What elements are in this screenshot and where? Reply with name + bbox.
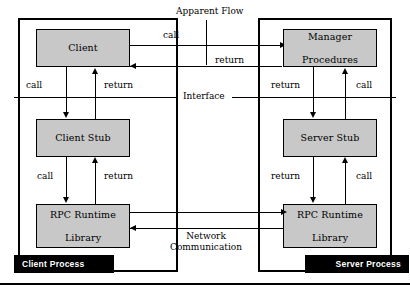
manager-call-arrow-line	[345, 74, 346, 119]
client-stub-box-label: Client Stub	[55, 132, 111, 144]
manager-procedures-box-label-line2: Procedures	[302, 54, 358, 66]
manager-call-arrowhead	[342, 68, 348, 74]
client-return-arrowhead	[92, 68, 98, 74]
manager-procedures-box: Manager Procedures	[283, 29, 377, 67]
client-stub-return-arrow-line	[95, 163, 96, 204]
network-communication-label-line2: Communication	[170, 242, 242, 252]
server-stub-call-arrowhead	[342, 157, 348, 163]
client-call-arrow-line	[66, 67, 67, 113]
apparent-return-label: return	[215, 55, 244, 66]
apparent-call-label: call	[163, 30, 179, 41]
server-stub-return-label: return	[271, 171, 300, 182]
server-runtime-box-label-line1: RPC Runtime	[297, 209, 363, 221]
manager-return-arrow-line	[313, 67, 314, 113]
server-runtime-box-label-line2: Library	[297, 232, 363, 244]
network-send-arrow-line	[130, 212, 283, 213]
server-stub-call-label: call	[356, 171, 372, 182]
client-stub-call-arrow-line	[66, 157, 67, 198]
client-stub-call-arrowhead	[63, 197, 69, 203]
network-communication-label: Network Communication	[156, 231, 256, 253]
client-stub-return-label: return	[104, 171, 133, 182]
client-return-arrow-line	[95, 74, 96, 119]
server-process-banner-label: Server Process	[336, 259, 401, 269]
client-runtime-box-label-line2: Library	[50, 232, 116, 244]
server-runtime-box: RPC Runtime Library	[283, 204, 377, 248]
rpc-architecture-diagram: Interface Apparent Flow call return Clie…	[0, 0, 410, 294]
server-stub-call-arrow-line	[345, 163, 346, 204]
server-process-banner: Server Process	[305, 255, 409, 273]
client-return-label: return	[104, 80, 133, 91]
network-receive-arrow-line	[130, 228, 283, 229]
client-runtime-box: RPC Runtime Library	[36, 204, 130, 248]
client-stub-return-arrowhead	[92, 157, 98, 163]
client-stub-call-label: call	[37, 171, 53, 182]
server-stub-return-arrowhead	[310, 197, 316, 203]
bottom-divider-rule	[0, 283, 410, 285]
apparent-return-arrow-line	[130, 66, 282, 67]
client-box: Client	[36, 29, 130, 67]
server-stub-box: Server Stub	[283, 119, 377, 157]
client-runtime-box-label-line1: RPC Runtime	[50, 209, 116, 221]
manager-return-label: return	[271, 80, 300, 91]
client-call-arrowhead	[63, 112, 69, 118]
client-call-label: call	[26, 80, 42, 91]
manager-procedures-box-label-line1: Manager	[302, 31, 358, 43]
network-send-arrowhead	[281, 209, 287, 215]
apparent-call-arrow-line	[130, 45, 282, 46]
client-process-banner: Client Process	[14, 255, 114, 273]
interface-label: Interface	[183, 91, 225, 102]
manager-return-arrowhead	[310, 112, 316, 118]
apparent-flow-leader-line	[206, 20, 207, 65]
manager-call-label: call	[356, 80, 372, 91]
interface-line-right	[232, 97, 396, 98]
server-stub-return-arrow-line	[313, 157, 314, 198]
apparent-flow-label: Apparent Flow	[176, 6, 238, 17]
server-stub-box-label: Server Stub	[301, 132, 360, 144]
apparent-return-arrowhead	[130, 63, 136, 69]
network-receive-arrowhead	[130, 225, 136, 231]
network-communication-label-line1: Network	[186, 231, 226, 241]
client-process-banner-label: Client Process	[22, 259, 85, 269]
client-box-label: Client	[68, 42, 98, 54]
client-stub-box: Client Stub	[36, 119, 130, 157]
